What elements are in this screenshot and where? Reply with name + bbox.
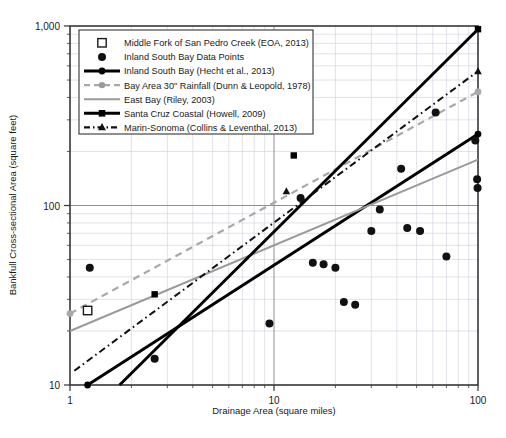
legend-label: Santa Cruz Coastal (Howell, 2009) [124,109,265,119]
data-point [473,175,481,183]
line-end-marker [475,88,482,95]
data-point [297,194,305,202]
x-tick-label: 1 [67,395,73,406]
legend-filled-circle-icon [98,53,106,61]
legend-label: Middle Fork of San Pedro Creek (EOA, 201… [124,38,309,48]
data-point [331,264,339,272]
y-tick-label: 1,000 [35,21,60,32]
legend-circle-marker-icon [99,82,105,88]
legend-label: Marin-Sonoma (Collins & Leventhal, 2013) [124,123,297,133]
data-point [403,224,411,232]
data-point [151,355,159,363]
legend-item: Middle Fork of San Pedro Creek (EOA, 201… [98,38,309,48]
legend-label: East Bay (Riley, 2003) [124,95,215,105]
legend-label: Inland South Bay (Hecht et al., 2013) [124,66,275,76]
legend-label: Bay Area 30" Rainfall (Dunn & Leopold, 1… [124,81,311,91]
legend-open-square-icon [98,39,106,47]
data-point [432,108,440,116]
line-end-marker [475,131,482,138]
line-mid-marker [291,152,297,158]
data-point [86,264,94,272]
data-point [340,298,348,306]
open-square-marker [83,306,91,314]
data-point [416,227,424,235]
chart-legend: Middle Fork of San Pedro Creek (EOA, 201… [79,30,313,134]
data-point [442,252,450,260]
legend-square-marker-icon [99,110,106,117]
data-point [474,184,482,192]
data-point [397,165,405,173]
x-axis-title: Drainage Area (square miles) [212,405,336,416]
data-point [367,227,375,235]
line-end-marker [84,382,91,389]
chart-figure: 110100 101001,000 Drainage Area (square … [0,0,506,438]
log-log-scatter-chart: 110100 101001,000 Drainage Area (square … [0,0,506,438]
data-point [471,137,479,145]
data-point [351,301,359,309]
y-tick-label: 10 [49,380,61,391]
legend-circle-marker-icon [99,68,106,75]
line-end-marker [67,310,74,317]
data-point [320,260,328,268]
data-point [376,205,384,213]
y-axis-title: Bankfull Cross-sectional Area (square fe… [7,115,18,296]
y-tick-label: 100 [43,201,60,212]
data-point [265,320,273,328]
line-mid-marker [151,291,157,297]
line-end-marker [475,26,481,32]
legend-label: Inland South Bay Data Points [124,52,244,62]
x-tick-label: 100 [470,395,487,406]
data-point [309,259,317,267]
